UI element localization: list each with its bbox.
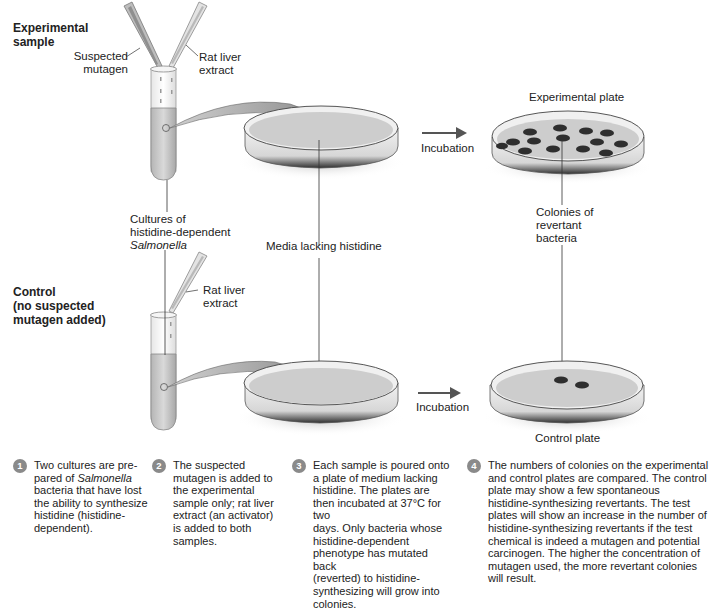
- experimental-sample-heading: Experimental sample: [13, 21, 88, 49]
- control-media-plate: [235, 361, 405, 436]
- suspected-mutagen-label: Suspected mutagen: [70, 50, 128, 76]
- control-rat-liver-pipette-icon: [169, 252, 207, 313]
- experimental-plate-label: Experimental plate: [529, 91, 624, 104]
- control-heading: Control (no suspected mutagen added): [13, 285, 106, 327]
- experimental-media-plate: [235, 106, 405, 180]
- step-badge: 2: [152, 459, 166, 473]
- experimental-test-tube: [124, 2, 207, 212]
- step-text: Each sample is poured onto a plate of me…: [313, 459, 452, 610]
- step-text: Two cultures are pre- pared of Salmonell…: [34, 459, 148, 535]
- step-text: The suspected mutagen is added to the ex…: [173, 459, 274, 547]
- control-result-plate: [482, 361, 652, 434]
- incubation-arrow-control: [418, 387, 461, 399]
- step-badge: 3: [292, 459, 306, 473]
- incubation-arrow-experimental: [422, 127, 467, 139]
- control-rat-liver-extract-label: Rat liver extract: [203, 284, 245, 310]
- mutagen-pipette-icon: [124, 2, 162, 68]
- control-test-tube: [151, 250, 208, 430]
- step-badge: 1: [13, 459, 27, 473]
- revertant-colonies-label: Colonies of revertant bacteria: [536, 206, 594, 245]
- rat-liver-extract-label: Rat liver extract: [199, 51, 241, 77]
- control-plate-label: Control plate: [535, 432, 600, 445]
- incubation-label-experimental: Incubation: [421, 142, 474, 155]
- cultures-label: Cultures of histidine-dependent Salmonel…: [130, 213, 230, 252]
- step-text: The numbers of colonies on the experimen…: [488, 459, 708, 585]
- incubation-label-control: Incubation: [416, 401, 469, 414]
- experimental-result-plate: [483, 111, 653, 184]
- step-badge: 4: [467, 459, 481, 473]
- media-lacking-histidine-label: Media lacking histidine: [266, 240, 382, 253]
